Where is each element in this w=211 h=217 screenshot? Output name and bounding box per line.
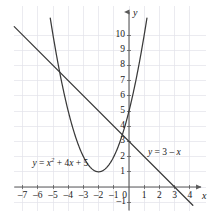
y-tick-label-10: 10 xyxy=(0,30,125,40)
y-tick-label-9: 9 xyxy=(0,45,125,55)
x-tick-label-3: 3 xyxy=(172,191,177,201)
y-tick-label-4: 4 xyxy=(0,121,125,131)
y-axis-label: y xyxy=(133,8,137,18)
x-axis-label: x xyxy=(202,191,206,201)
y-tick-label-5: 5 xyxy=(0,106,125,116)
line-equation-label: y = 3 – x xyxy=(148,148,181,158)
y-tick-label-6: 6 xyxy=(0,91,125,101)
x-tick-label-1: 1 xyxy=(142,191,147,201)
y-tick-label-3: 3 xyxy=(0,137,125,147)
y-tick-label-neg1: –1 xyxy=(0,197,126,207)
parabola-equation-label: y = x2 + 4x + 5 xyxy=(32,159,88,169)
x-tick-label-2: 2 xyxy=(157,191,162,201)
y-tick-label-7: 7 xyxy=(0,76,125,86)
x-tick-label-4: 4 xyxy=(187,191,192,201)
y-tick-label-8: 8 xyxy=(0,61,125,71)
y-tick-label-1: 1 xyxy=(0,167,125,177)
graph-figure: –7–6–5–4–3–2–101234–112345678910 y x y =… xyxy=(0,0,211,217)
